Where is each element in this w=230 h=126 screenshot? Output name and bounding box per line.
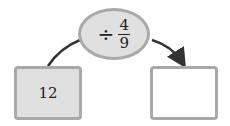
operation-ellipse: ÷ 4 9 [78,8,150,60]
output-arrow [152,40,182,62]
input-box: 12 [14,66,82,120]
numerator: 4 [120,18,130,33]
input-value: 12 [38,84,57,102]
input-connector [48,40,80,66]
denominator: 9 [120,36,130,51]
fraction: 4 9 [118,18,130,51]
output-box[interactable] [150,66,218,120]
divide-symbol: ÷ [98,22,115,46]
